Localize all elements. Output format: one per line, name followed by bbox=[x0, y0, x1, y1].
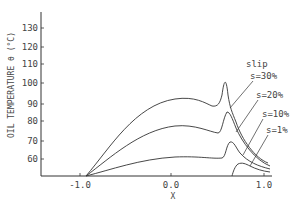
svg-text:1.0: 1.0 bbox=[256, 180, 272, 190]
legend-label-s30: s=30% bbox=[250, 71, 278, 81]
leader-s20 bbox=[236, 100, 258, 132]
svg-text:120: 120 bbox=[22, 42, 38, 52]
x-axis-title: X bbox=[171, 192, 176, 201]
curve-s20 bbox=[86, 112, 270, 176]
legend-label-s1: s=1% bbox=[266, 125, 288, 135]
svg-text:80: 80 bbox=[27, 116, 38, 126]
svg-text:100: 100 bbox=[22, 78, 38, 88]
legend-label-s20: s=20% bbox=[256, 90, 284, 100]
leader-s10 bbox=[243, 119, 263, 155]
curve-s10 bbox=[86, 142, 270, 176]
svg-text:110: 110 bbox=[22, 59, 38, 69]
legend-title-slip: slip bbox=[246, 59, 268, 69]
curve-s30 bbox=[86, 82, 268, 176]
oil-temperature-chart: 130 120 110 100 90 80 70 60 OIL TEMPERAT… bbox=[0, 0, 296, 203]
svg-text:70: 70 bbox=[27, 136, 38, 146]
legend-label-s10: s=10% bbox=[262, 109, 290, 119]
leader-s30 bbox=[230, 81, 253, 108]
svg-text:60: 60 bbox=[27, 154, 38, 164]
x-tick-labels: -1.0 0.0 1.0 bbox=[69, 180, 272, 190]
svg-text:130: 130 bbox=[22, 23, 38, 33]
svg-text:90: 90 bbox=[27, 99, 38, 109]
y-axis-title: OIL TEMPERATURE θ (°C) bbox=[7, 32, 16, 138]
svg-text:-1.0: -1.0 bbox=[69, 180, 91, 190]
svg-text:0.0: 0.0 bbox=[163, 180, 179, 190]
y-tick-labels: 130 120 110 100 90 80 70 60 bbox=[22, 23, 38, 164]
